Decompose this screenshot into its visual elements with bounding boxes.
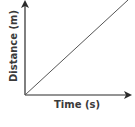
- x-axis-label: Time (s): [54, 99, 100, 110]
- data-line: [25, 0, 128, 95]
- y-axis-label: Distance (m): [8, 10, 19, 82]
- distance-time-chart: Time (s) Distance (m): [0, 0, 135, 127]
